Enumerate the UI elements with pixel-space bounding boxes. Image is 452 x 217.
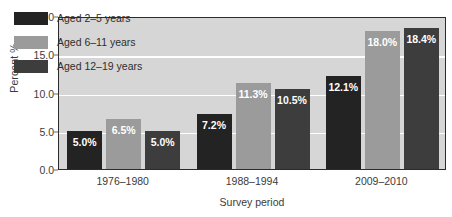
- legend-item: Aged 12–19 years: [14, 56, 164, 76]
- bar-value-label: 7.2%: [197, 119, 232, 131]
- y-axis-tick-label: 0.0: [24, 164, 54, 176]
- y-axis-tick-mark: [54, 55, 58, 56]
- y-axis-tick-mark: [54, 17, 58, 18]
- x-axis-tick-label: 2009–2010: [355, 175, 408, 187]
- legend-label: Aged 12–19 years: [57, 60, 142, 72]
- bar: 7.2%: [197, 114, 232, 169]
- bar: 12.1%: [326, 76, 361, 169]
- bar: 5.0%: [67, 131, 102, 169]
- bar-value-label: 5.0%: [145, 136, 180, 148]
- y-axis-tick-mark: [54, 170, 58, 171]
- legend: Aged 2–5 yearsAged 6–11 yearsAged 12–19 …: [14, 8, 164, 80]
- bar: 6.5%: [106, 119, 141, 169]
- bar-value-label: 12.1%: [326, 81, 361, 93]
- legend-label: Aged 6–11 years: [57, 36, 136, 48]
- y-axis-tick-label: 10.0: [24, 88, 54, 100]
- legend-swatch-icon: [14, 12, 48, 25]
- bar: 18.4%: [404, 28, 439, 169]
- legend-swatch-icon: [14, 60, 48, 73]
- y-axis-tick-mark: [54, 93, 58, 94]
- bar-value-label: 5.0%: [67, 136, 102, 148]
- legend-label: Aged 2–5 years: [57, 12, 131, 24]
- legend-swatch-icon: [14, 36, 48, 49]
- bar-value-label: 6.5%: [106, 124, 141, 136]
- bar: 10.5%: [275, 89, 310, 169]
- bar-chart: Percent % 0.05.010.015.020.0 5.0%6.5%5.0…: [0, 0, 452, 217]
- x-axis-tick-labels: 1976–19801988–19942009–2010: [58, 175, 446, 191]
- x-axis-title: Survey period: [58, 196, 446, 208]
- x-axis-tick-label: 1988–1994: [226, 175, 279, 187]
- y-axis-tick-label: 5.0: [24, 126, 54, 138]
- legend-item: Aged 2–5 years: [14, 8, 164, 28]
- bar-value-label: 11.3%: [236, 88, 271, 100]
- bar: 18.0%: [365, 31, 400, 169]
- x-axis-tick-label: 1976–1980: [96, 175, 149, 187]
- bar: 5.0%: [145, 131, 180, 169]
- bar-value-label: 18.0%: [365, 36, 400, 48]
- y-axis-tick-mark: [54, 131, 58, 132]
- legend-item: Aged 6–11 years: [14, 32, 164, 52]
- bar: 11.3%: [236, 83, 271, 169]
- bar-value-label: 18.4%: [404, 33, 439, 45]
- bar-value-label: 10.5%: [275, 94, 310, 106]
